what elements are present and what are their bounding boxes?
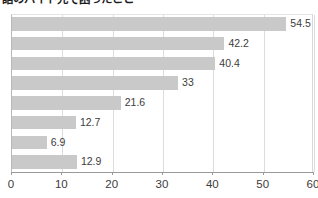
tick-mark — [11, 172, 12, 175]
bar-value-label: 6.9 — [51, 135, 66, 150]
bar — [12, 116, 76, 130]
bar — [12, 37, 224, 51]
bar-row: 12.9 — [12, 153, 312, 173]
x-tick-label: 30 — [156, 177, 169, 191]
bar — [12, 76, 178, 90]
bar-value-label: 12.7 — [80, 115, 100, 130]
chart-title: 話のバイト先で困ったこと — [2, 0, 302, 10]
bar-value-label: 21.6 — [125, 95, 145, 110]
bar-row: 12.7 — [12, 114, 312, 134]
bar-value-label: 40.4 — [219, 56, 239, 71]
bar-chart: 話のバイト先で困ったこと 54.542.240.43321.612.76.912… — [0, 0, 318, 198]
bar — [12, 155, 77, 169]
x-tick-label: 20 — [105, 177, 118, 191]
x-tick-label: 60 — [307, 177, 318, 191]
bar-row: 21.6 — [12, 94, 312, 114]
tick-mark — [313, 172, 314, 175]
bar — [12, 96, 121, 110]
bar-row: 40.4 — [12, 55, 312, 75]
tick-mark — [263, 172, 264, 175]
bar-value-label: 33 — [182, 75, 194, 90]
tick-mark — [212, 172, 213, 175]
tick-mark — [112, 172, 113, 175]
bar-value-label: 42.2 — [228, 36, 248, 51]
tick-mark — [61, 172, 62, 175]
bar — [12, 136, 47, 150]
x-tick-label: 40 — [206, 177, 219, 191]
bar-value-label: 54.5 — [290, 16, 310, 31]
bar-value-label: 12.9 — [81, 154, 101, 169]
gridline — [314, 15, 315, 172]
bars-layer: 54.542.240.43321.612.76.912.9 — [12, 15, 312, 172]
bar — [12, 57, 215, 71]
bar-row: 33 — [12, 74, 312, 94]
x-tick-label: 0 — [8, 177, 14, 191]
x-axis-ticks: 0102030405060 — [0, 172, 318, 198]
x-tick-label: 10 — [55, 177, 68, 191]
bar-row: 54.5 — [12, 15, 312, 35]
bar-row: 6.9 — [12, 134, 312, 154]
bar — [12, 17, 286, 31]
plot-area: 54.542.240.43321.612.76.912.9 — [11, 14, 313, 172]
tick-mark — [162, 172, 163, 175]
x-tick-label: 50 — [256, 177, 269, 191]
bar-row: 42.2 — [12, 35, 312, 55]
